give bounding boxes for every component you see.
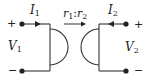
right-port — [81, 24, 126, 71]
left-port — [22, 24, 68, 71]
voltage-label-2: V2 — [125, 41, 139, 55]
ratio-label: r1:r2 — [63, 8, 87, 21]
plus-sign-2: + — [134, 19, 143, 30]
current-label-1: I1 — [30, 4, 40, 18]
terminal-2-top — [123, 21, 128, 26]
current-label-2: I2 — [108, 4, 118, 18]
terminal-2-bottom — [123, 68, 128, 73]
ratio-arrow — [64, 22, 86, 27]
terminal-1-top — [19, 21, 24, 26]
voltage-label-1: V1 — [8, 40, 22, 54]
terminal-1-bottom — [19, 68, 24, 73]
current-arrow-2 — [108, 21, 114, 27]
minus-sign-1: − — [8, 65, 17, 76]
plus-sign-1: + — [7, 18, 16, 29]
current-arrow-1 — [35, 21, 41, 27]
minus-sign-2: − — [134, 65, 143, 76]
